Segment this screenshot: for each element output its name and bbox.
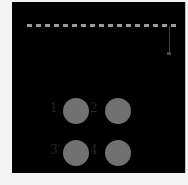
track-dash [144,24,149,27]
track-dash [126,24,131,27]
track-dash [54,24,59,27]
circle-button-4[interactable] [105,140,131,166]
track-dash [36,24,41,27]
track-dash [117,24,122,27]
button-1-label: 1 [50,102,58,114]
game-board: 1 2 3 4 [12,2,186,173]
track-dash [153,24,158,27]
track-dash [162,24,167,27]
track-end-line [169,26,170,54]
track-dash [63,24,68,27]
dashed-track [27,24,181,28]
track-end-marker [167,52,171,55]
button-4-label: 4 [90,144,98,156]
button-2-label: 2 [90,102,98,114]
circle-button-3[interactable] [63,140,89,166]
track-dash [27,24,32,27]
track-dash [99,24,104,27]
track-dash [45,24,50,27]
track-dash [108,24,113,27]
track-dash [135,24,140,27]
track-dash [171,24,176,27]
circle-button-2[interactable] [105,98,131,124]
button-3-label: 3 [50,144,58,156]
circle-button-1[interactable] [63,98,89,124]
track-dash [72,24,77,27]
track-dash [90,24,95,27]
track-dash [81,24,86,27]
